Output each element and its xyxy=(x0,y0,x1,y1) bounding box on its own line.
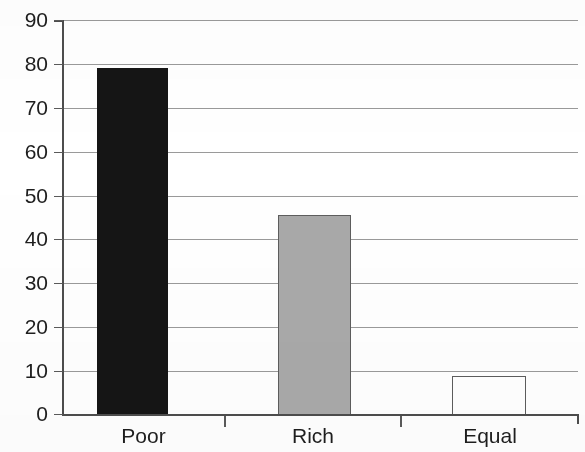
y-tick-label-40: 40 xyxy=(2,228,48,249)
y-tick-label-20: 20 xyxy=(2,316,48,337)
y-axis-line xyxy=(62,20,64,416)
x-tick-label-equal: Equal xyxy=(401,424,579,448)
bar-poor xyxy=(97,68,168,415)
y-tick-50 xyxy=(54,196,63,197)
y-tick-70 xyxy=(54,108,63,109)
y-tick-20 xyxy=(54,327,63,328)
y-tick-label-10: 10 xyxy=(2,360,48,381)
y-tick-30 xyxy=(54,283,63,284)
y-tick-60 xyxy=(54,152,63,153)
y-tick-label-60: 60 xyxy=(2,141,48,162)
y-tick-0 xyxy=(54,414,63,415)
x-tick-label-rich: Rich xyxy=(225,424,401,448)
bar-rich xyxy=(278,215,351,415)
y-tick-40 xyxy=(54,239,63,240)
x-axis-end-cap xyxy=(577,414,579,424)
y-tick-label-50: 50 xyxy=(2,185,48,206)
bar-chart: 90 80 70 60 50 40 30 20 10 0 Poor Rich E… xyxy=(0,0,585,452)
y-tick-label-30: 30 xyxy=(2,272,48,293)
y-tick-label-80: 80 xyxy=(2,53,48,74)
y-tick-90 xyxy=(54,20,63,21)
y-tick-label-70: 70 xyxy=(2,97,48,118)
x-axis-line xyxy=(62,414,579,416)
y-tick-label-90: 90 xyxy=(2,9,48,30)
y-tick-label-0: 0 xyxy=(2,403,48,424)
x-tick-label-poor: Poor xyxy=(62,424,225,448)
plot-area xyxy=(62,20,578,415)
gridline-90 xyxy=(62,20,578,21)
gridline-80 xyxy=(62,64,578,65)
bar-equal xyxy=(452,376,526,416)
y-tick-80 xyxy=(54,64,63,65)
y-tick-10 xyxy=(54,371,63,372)
